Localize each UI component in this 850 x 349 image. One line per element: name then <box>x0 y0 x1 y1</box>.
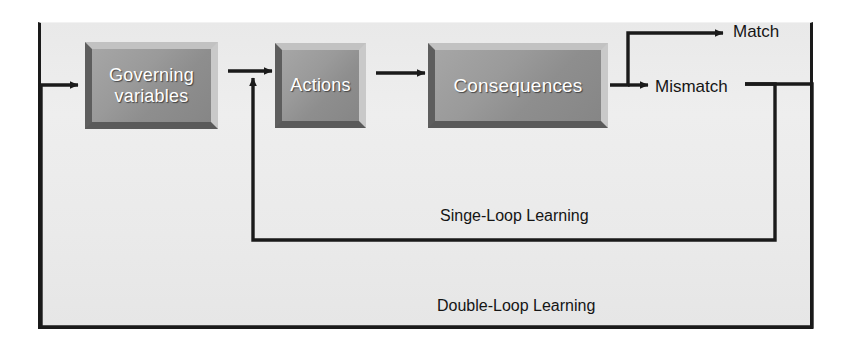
process-box-governing-variables-label: Governingvariables <box>109 65 194 105</box>
loop-label-double-loop-learning: Double-Loop Learning <box>437 297 595 315</box>
outcome-label-mismatch: Mismatch <box>655 77 728 97</box>
loop-label-single-loop-learning: Singe-Loop Learning <box>440 207 589 225</box>
diagram-canvas: Governingvariables Actions Consequences … <box>0 0 850 349</box>
outcome-label-match: Match <box>733 22 779 42</box>
process-box-actions[interactable]: Actions <box>275 43 366 128</box>
process-box-actions-label: Actions <box>290 75 350 95</box>
process-box-consequences[interactable]: Consequences <box>428 43 608 128</box>
process-box-consequences-label: Consequences <box>453 75 582 96</box>
process-box-governing-variables[interactable]: Governingvariables <box>85 42 218 129</box>
